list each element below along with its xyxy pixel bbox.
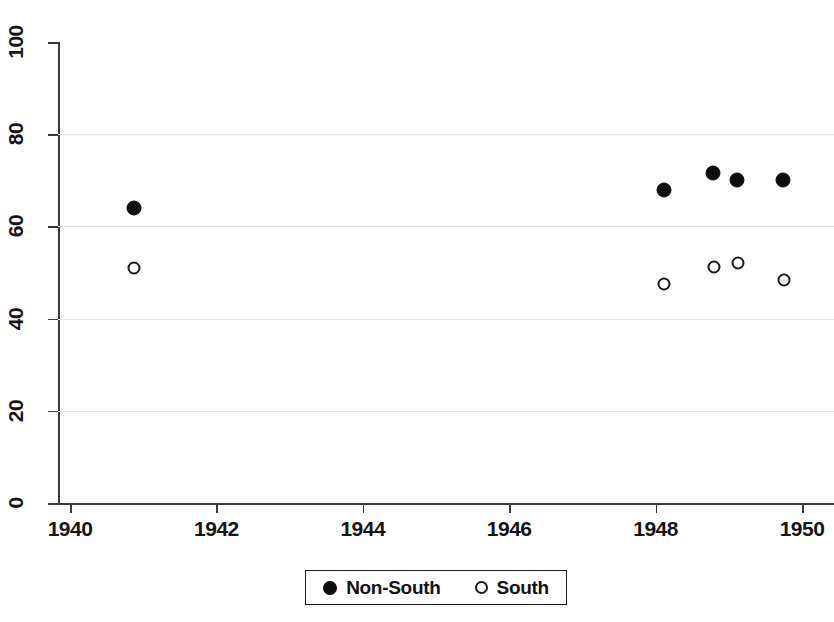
filled-circle-icon [323, 581, 337, 595]
gridline [58, 134, 834, 135]
gridline [58, 226, 834, 227]
data-point-south [778, 274, 791, 287]
data-point-non-south [729, 173, 744, 188]
legend-label-south: South [497, 577, 549, 599]
data-point-south [127, 261, 140, 274]
y-axis-tick-label: 80 [3, 104, 29, 164]
x-axis-tick [363, 503, 365, 513]
legend-entry-non-south: Non-South [323, 577, 440, 599]
x-axis-tick-label: 1942 [194, 517, 239, 541]
data-point-non-south [126, 200, 141, 215]
x-axis-line [58, 503, 834, 505]
x-axis-tick-label: 1950 [780, 517, 825, 541]
x-axis-tick [509, 503, 511, 513]
data-point-south [708, 260, 721, 273]
x-axis-tick-label: 1948 [633, 517, 678, 541]
x-axis-tick-label: 1946 [487, 517, 532, 541]
y-axis-tick [48, 319, 58, 321]
x-axis-tick [216, 503, 218, 513]
data-point-south [657, 278, 670, 291]
y-axis-tick [48, 411, 58, 413]
y-axis-tick-label: 60 [3, 196, 29, 256]
x-axis-tick-label: 1940 [48, 517, 93, 541]
data-point-non-south [705, 166, 720, 181]
x-axis-tick [656, 503, 658, 513]
y-axis-tick [48, 226, 58, 228]
x-axis-tick [802, 503, 804, 513]
y-axis-tick [48, 503, 58, 505]
data-point-south [731, 257, 744, 270]
y-axis-tick-label: 0 [3, 473, 29, 533]
gridline [58, 319, 834, 320]
y-axis-tick-label: 100 [3, 12, 29, 72]
y-axis-tick-label: 20 [3, 381, 29, 441]
data-point-non-south [775, 173, 790, 188]
gridline [58, 411, 834, 412]
x-axis-tick-label: 1944 [340, 517, 385, 541]
plot-area [0, 0, 834, 622]
y-axis-tick [48, 134, 58, 136]
x-axis-tick [70, 503, 72, 513]
legend-label-non-south: Non-South [346, 577, 440, 599]
legend-entry-south: South [475, 577, 549, 599]
y-axis-tick [48, 42, 58, 44]
y-axis-tick-label: 40 [3, 289, 29, 349]
open-circle-icon [475, 581, 488, 594]
data-point-non-south [656, 182, 671, 197]
y-axis-line [58, 42, 60, 504]
chart-figure: 020406080100 194019421944194619481950 No… [0, 0, 834, 622]
chart-legend: Non-South South [305, 570, 567, 605]
